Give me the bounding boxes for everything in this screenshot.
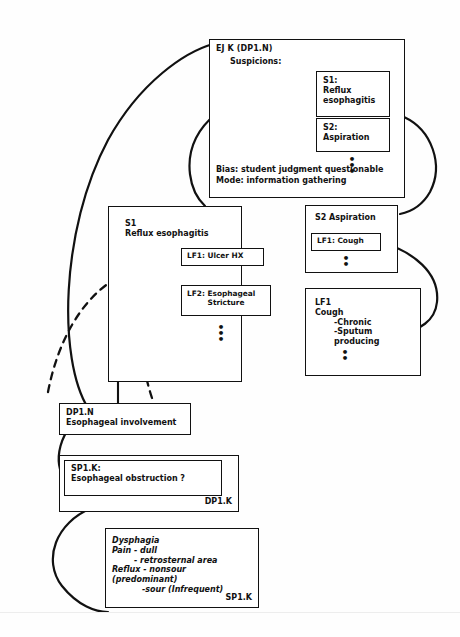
lf1-detail-line4: -Sputum producing (312, 327, 414, 347)
scan-artifact-line (0, 612, 460, 613)
sp1k-question-line2: Esophageal obstruction ? (71, 474, 215, 484)
sp1k-line2: Pain - dull (112, 546, 252, 556)
node-lf2-esophageal-stricture[interactable]: LF2: Esophageal Stricture (181, 285, 271, 316)
lf1-detail-line1: LF1 (315, 298, 414, 308)
ejk-mode: Mode: information gathering (216, 176, 346, 186)
s2-detail-ellipsis: • • (341, 256, 351, 268)
node-s1-suspicion[interactable]: S1: Reflux esophagitis (316, 71, 390, 117)
node-lf1-cough-chip[interactable]: LF1: Cough (311, 233, 381, 251)
s1-suspicion-line2: Reflux (323, 86, 383, 96)
s1-suspicion-line1: S1: (323, 76, 383, 86)
s1-detail-line1: S1 (125, 219, 235, 229)
s2-detail-title: S2 Aspiration (315, 213, 391, 223)
dp1k-corner-label: DP1.K (205, 497, 232, 507)
node-lf1-cough-detail[interactable]: LF1 Cough -Chronic -Sputum producing (305, 288, 421, 376)
s1-suspicion-line3: esophagitis (323, 96, 383, 106)
lf1-detail-line3: -Chronic (312, 318, 414, 328)
lf1-cough-chip-label: LF1: Cough (317, 236, 375, 245)
connector-s2-to-s2detail (400, 117, 436, 214)
node-sp1k-question[interactable]: SP1.K: Esophageal obstruction ? (64, 460, 222, 496)
s2-suspicion-line2: Aspiration (323, 133, 383, 143)
node-sp1k-findings[interactable]: Dysphagia Pain - dull - retrosternal are… (105, 528, 259, 608)
lf2-line2: Stricture (187, 298, 265, 307)
ejk-bias: Bias: student judgment questionable (216, 165, 383, 175)
diagram-canvas: EJ K (DP1.N) Suspicions: Bias: student j… (0, 0, 460, 637)
dp1n-line1: DP1.N (66, 408, 184, 418)
s2-suspicion-line1: S2: (323, 123, 383, 133)
s1-detail-ellipsis: • • • (216, 325, 226, 343)
ejk-title: EJ K (DP1.N) (216, 44, 398, 54)
sp1k-line3: - retrosternal area (112, 556, 252, 566)
ejk-suspicions-ellipsis: • • • (347, 157, 357, 175)
connector-sp1k-to-dysphagia (53, 508, 108, 612)
sp1k-corner-label: SP1.K (226, 593, 252, 603)
sp1k-line4: Reflux - nonsour (predominant) (112, 565, 252, 585)
lf1-detail-ellipsis: • • (340, 350, 350, 362)
dp1n-line2: Esophageal involvement (66, 418, 184, 428)
lf2-line1: LF2: Esophageal (187, 289, 265, 298)
node-s2-suspicion[interactable]: S2: Aspiration (316, 118, 390, 152)
lf1-detail-line2: Cough (315, 308, 414, 318)
sp1k-question-line1: SP1.K: (71, 464, 215, 474)
s1-detail-line2: Reflux esophagitis (125, 229, 235, 239)
node-dp1n[interactable]: DP1.N Esophageal involvement (59, 403, 191, 435)
ejk-subtitle: Suspicions: (216, 57, 398, 67)
node-lf1-ulcer-hx[interactable]: LF1: Ulcer HX (181, 248, 264, 266)
lf1-ulcer-hx-label: LF1: Ulcer HX (187, 251, 258, 260)
sp1k-line1: Dysphagia (112, 536, 252, 546)
